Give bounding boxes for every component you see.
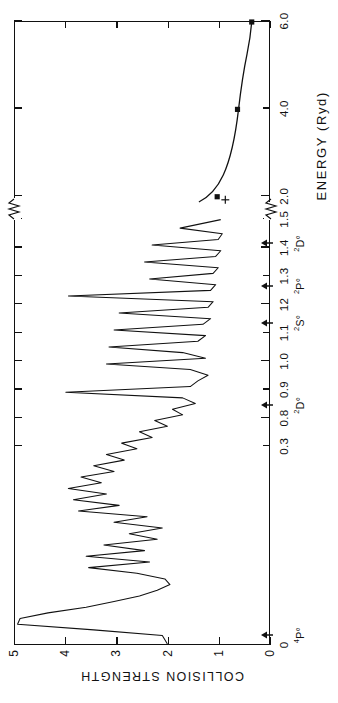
x-axis-tick-label: 1.0	[278, 353, 290, 370]
x-axis-tick-top	[14, 195, 22, 196]
x-axis-tick	[261, 20, 270, 21]
high-energy-tail-curve	[199, 22, 252, 202]
x-axis-tick-label: 2.0	[278, 188, 290, 205]
x-axis-tick	[261, 195, 270, 196]
x-axis-tick-top	[14, 246, 22, 247]
x-axis-tick	[263, 275, 270, 276]
x-axis-tick	[263, 445, 270, 446]
x-axis-tick	[263, 388, 270, 389]
x-axis-tick-top	[14, 388, 22, 389]
data-point-marker	[215, 194, 220, 199]
x-axis-tick-label: 0.8	[278, 410, 290, 427]
x-axis-tick	[261, 417, 270, 418]
plot-area	[14, 21, 270, 645]
x-axis-tick-top	[14, 107, 22, 108]
collision-strength-curve	[15, 22, 269, 644]
x-axis-tick-top	[14, 417, 22, 418]
y-axis-tick	[270, 637, 271, 645]
x-axis-tick-top	[14, 218, 22, 219]
x-axis-tick-top	[14, 332, 22, 333]
y-axis-tick-label: 5	[7, 650, 21, 676]
x-axis-tick-top	[14, 360, 22, 361]
x-axis-title: ENERGY (Ryd)	[314, 91, 329, 200]
x-axis-tick-top	[14, 644, 22, 645]
data-point-marker	[249, 19, 254, 24]
collision-strength-figure: 00.30.80.91.01.1121.31.41.52.04.06.04P°2…	[0, 0, 338, 703]
y-axis-tick-right	[65, 21, 66, 28]
threshold-label: 2S°	[292, 315, 306, 331]
y-axis-tick-label: 4	[58, 650, 72, 676]
x-axis-tick	[261, 360, 270, 361]
x-axis-tick	[261, 644, 270, 645]
x-axis-tick-label: 1.4	[278, 239, 290, 256]
threshold-label: 2D°	[292, 235, 306, 252]
y-axis-tick-label: 0	[263, 650, 277, 676]
y-axis-tick-right	[116, 21, 117, 28]
y-axis-tick	[219, 637, 220, 645]
resonance-curve	[18, 220, 223, 644]
y-axis-tick	[168, 637, 169, 645]
x-axis-tick-label: 4.0	[278, 100, 290, 117]
x-axis-tick-label: 12	[278, 298, 290, 311]
x-axis-tick	[263, 332, 270, 333]
x-axis-tick	[261, 246, 270, 247]
x-axis-tick-label: 1.3	[278, 268, 290, 285]
x-axis-tick-label: 6.0	[278, 13, 290, 30]
x-axis-tick-label: 0	[278, 642, 290, 649]
x-axis-tick-label: 1.1	[278, 324, 290, 341]
y-axis-tick-right	[168, 21, 169, 28]
data-point-marker	[235, 107, 240, 112]
x-axis-tick-top	[14, 445, 22, 446]
threshold-label: 2D°	[292, 397, 306, 414]
x-axis-tick	[263, 107, 270, 108]
x-axis-tick-label: 0.3	[278, 438, 290, 455]
y-axis-tick	[65, 637, 66, 645]
x-axis-tick-label: 0.9	[278, 381, 290, 398]
threshold-label: 4P°	[292, 627, 306, 643]
threshold-label: 2P°	[292, 278, 306, 294]
y-axis-tick-right	[14, 21, 15, 28]
y-axis-tick	[14, 637, 15, 645]
y-axis-title: COLLISION STRENGTH	[80, 669, 244, 683]
x-axis-tick	[261, 303, 270, 304]
x-axis-tick-top	[14, 275, 22, 276]
x-axis-tick-top	[14, 20, 22, 21]
rotated-figure-frame: 00.30.80.91.01.1121.31.41.52.04.06.04P°2…	[0, 0, 338, 703]
x-axis-tick	[263, 218, 270, 219]
x-axis-tick-label: 1.5	[278, 211, 290, 228]
y-axis-tick-right	[219, 21, 220, 28]
comparison-point-plus-marker	[221, 196, 229, 204]
y-axis-tick-right	[270, 21, 271, 28]
y-axis-tick	[116, 637, 117, 645]
x-axis-tick-top	[14, 303, 22, 304]
